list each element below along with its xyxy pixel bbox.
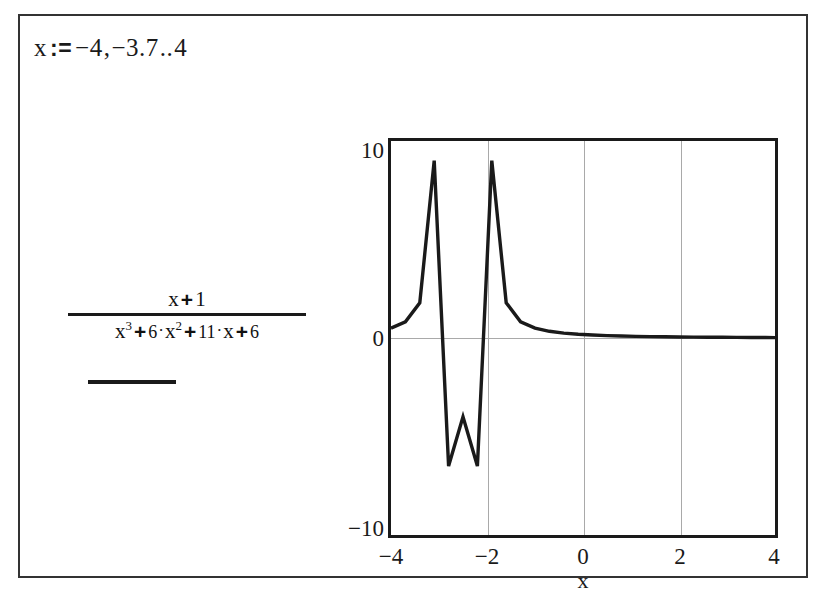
fraction-denominator: x3+6·x2+11·x+6 — [68, 318, 306, 342]
expression-region[interactable]: x+1 x3+6·x2+11·x+6 — [68, 288, 348, 342]
function-curve — [391, 161, 775, 466]
denominator-plus-operator-2: + — [182, 320, 198, 343]
x-axis-tick-labels: −4 −2 0 2 4 — [388, 538, 778, 568]
x-tick-label-2: 2 — [674, 544, 686, 570]
y-tick-label-top: 10 — [361, 138, 384, 164]
denominator-term1-base: x — [115, 319, 126, 343]
range-second-value: −3.7 — [111, 34, 158, 61]
range-variable: x — [34, 34, 47, 61]
y-tick-label-middle: 0 — [373, 326, 385, 352]
numerator-plus-operator: + — [179, 288, 195, 311]
plot-curve-svg — [391, 141, 775, 535]
mathcad-worksheet: x:=−4,−3.7..4 x+1 x3+6·x2+11·x+6 10 0 −1… — [18, 14, 808, 578]
edit-cursor-underline — [88, 380, 176, 384]
numerator-term-x: x — [168, 287, 179, 311]
denominator-term3-base: x — [223, 319, 234, 343]
plot-inner-area — [391, 141, 775, 535]
assignment-operator: := — [47, 35, 75, 61]
range-end-value: 4 — [174, 34, 187, 61]
range-ellipsis-operator: .. — [159, 34, 175, 61]
denominator-plus-operator-1: + — [132, 320, 148, 343]
denominator-term2-multiply-dot: · — [157, 321, 165, 340]
denominator-plus-operator-3: + — [234, 320, 250, 343]
y-tick-label-bottom: −10 — [348, 516, 384, 542]
range-start-value: −4 — [75, 34, 103, 61]
range-definition-region[interactable]: x:=−4,−3.7..4 — [34, 34, 187, 62]
denominator-term2-base: x — [165, 319, 176, 343]
x-tick-label-4: 4 — [768, 544, 780, 570]
fraction-bar — [68, 313, 306, 316]
x-tick-label-0: 0 — [577, 544, 589, 570]
plot-region[interactable]: 10 0 −10 −4 −2 0 2 4 x — [370, 124, 790, 584]
fraction: x+1 x3+6·x2+11·x+6 — [68, 288, 306, 342]
x-tick-label-neg4: −4 — [379, 544, 403, 570]
denominator-term3-multiply-dot: · — [216, 321, 224, 340]
x-axis-title: x — [388, 568, 778, 594]
denominator-term3-coefficient: 11 — [198, 322, 215, 342]
denominator-term2-exponent: 2 — [175, 318, 182, 333]
numerator-term-1: 1 — [195, 287, 206, 311]
denominator-term4-constant: 6 — [250, 322, 259, 342]
x-tick-label-neg2: −2 — [475, 544, 499, 570]
fraction-numerator: x+1 — [68, 288, 306, 312]
denominator-term2-coefficient: 6 — [148, 322, 157, 342]
y-axis-tick-labels: 10 0 −10 — [370, 138, 384, 538]
plot-frame[interactable] — [388, 138, 778, 538]
